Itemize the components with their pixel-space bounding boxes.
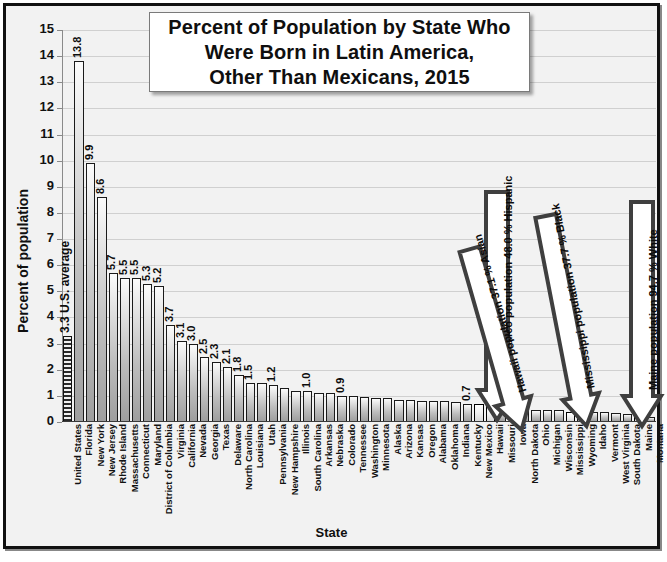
bar (132, 278, 141, 422)
x-tick-label: Kentucky (472, 424, 483, 467)
bar-value-label: 3.3 U.S. average (58, 241, 72, 333)
bar (269, 385, 278, 422)
x-tick-label: South Carolina (312, 424, 323, 492)
x-tick-label: Tennessee (357, 424, 368, 472)
bar-value-label: 5.3 (140, 265, 152, 280)
x-tick-label: Arizona (403, 424, 414, 459)
x-axis-title: State (6, 525, 657, 540)
bar-value-label: 1.0 (300, 372, 312, 387)
bar (234, 375, 243, 422)
y-tick-label: 14 (18, 47, 54, 62)
x-tick-label: New York (95, 424, 106, 466)
x-tick-label: Maine (643, 424, 654, 451)
bar (463, 404, 472, 422)
x-tick-label: Oregon (426, 424, 437, 458)
y-tick-label: 13 (18, 73, 54, 88)
y-tick-label: 15 (18, 21, 54, 36)
bar (189, 344, 198, 422)
y-axis-title: Percent of population (12, 101, 34, 421)
x-tick-label: Delaware (232, 424, 243, 466)
bar-value-label: 2.5 (197, 338, 209, 353)
x-tick-label: North Carolina (243, 424, 254, 490)
chart-title-line-1: Percent of Population by State Who (168, 15, 510, 40)
bar (314, 393, 323, 422)
bar-value-label: 13.8 (71, 37, 83, 58)
bar (246, 383, 255, 422)
x-tick-label: New Mexico (483, 424, 494, 478)
bar (177, 341, 186, 422)
bar (360, 397, 369, 422)
x-tick-label: Mississippi (574, 424, 585, 475)
bar (326, 393, 335, 422)
x-tick-label: Maryland (152, 424, 163, 466)
x-tick-label: Wisconsin (563, 424, 574, 471)
annotation-text-maine: Maine population 94.7 % White (647, 229, 659, 390)
bar (451, 402, 460, 422)
y-tick-mark (57, 422, 62, 423)
bar-value-label: 3.0 (185, 325, 197, 340)
x-tick-label: Illinois (300, 424, 311, 454)
chart-title-box: Percent of Population by State Who Were … (149, 12, 530, 92)
bar (394, 400, 403, 422)
x-tick-label: Indiana (460, 424, 471, 457)
x-tick-label: Colorado (346, 424, 357, 466)
x-tick-label: Utah (266, 424, 277, 445)
x-tick-label: Michigan (551, 424, 562, 465)
bar-value-label: 1.2 (265, 367, 277, 382)
bar (349, 396, 358, 422)
bar-value-label: 5.7 (105, 255, 117, 270)
y-axis-title-text: Percent of population (15, 189, 31, 333)
bar (97, 197, 106, 422)
bar (337, 396, 346, 422)
bar (143, 284, 152, 423)
x-tick-label: Kansas (414, 424, 425, 458)
x-tick-label: Minnesota (380, 424, 391, 471)
x-tick-label: Nebraska (334, 424, 345, 467)
bar-value-label: 8.6 (94, 179, 106, 194)
x-tick-label: Alabama (437, 424, 448, 464)
x-tick-label: Rhode Island (117, 424, 128, 484)
bar (63, 336, 72, 422)
bar (417, 401, 426, 422)
bar (406, 400, 415, 422)
x-tick-label: Georgia (209, 424, 220, 460)
bar-value-label: 5.5 (117, 260, 129, 275)
bar (109, 273, 118, 422)
bar (440, 401, 449, 422)
x-tick-label: District of Columbia (163, 424, 174, 514)
x-tick-label: Virginia (175, 424, 186, 459)
bar (120, 278, 129, 422)
x-tick-label: Arkansas (323, 424, 334, 467)
chart-title-line-2: Were Born in Latin America, (205, 40, 474, 65)
x-tick-label: Texas (220, 424, 231, 450)
x-tick-label: Pennsylvania (277, 424, 288, 485)
x-tick-label: United States (72, 424, 83, 485)
x-tick-label: South Dakota (631, 424, 642, 485)
bar-value-label: 0.7 (460, 385, 472, 400)
bar-value-label: 5.5 (128, 260, 140, 275)
bar (166, 325, 175, 422)
x-tick-label: Oklahoma (449, 424, 460, 470)
bar (74, 61, 83, 422)
x-tick-label: Washington (369, 424, 380, 478)
x-tick-label: Alaska (392, 424, 403, 455)
x-tick-label: Massachusetts (129, 424, 140, 492)
x-tick-label: New Jersey (106, 424, 117, 476)
bar (257, 383, 266, 422)
bar (371, 398, 380, 422)
x-tick-label: Wyoming (586, 424, 597, 467)
x-tick-label: California (186, 424, 197, 468)
bar (223, 367, 232, 422)
x-tick-label: Vermont (609, 424, 620, 462)
bar (383, 398, 392, 422)
x-tick-label: Connecticut (140, 424, 151, 479)
chart-figure: Percent of Population by State Who Were … (3, 3, 660, 549)
bar-value-label: 2.3 (208, 344, 220, 359)
bar (200, 357, 209, 422)
bar (291, 391, 300, 422)
bar-value-label: 3.7 (163, 307, 175, 322)
x-tick-label: New Hampshire (289, 424, 300, 495)
bar (429, 401, 438, 422)
bar (212, 362, 221, 422)
bar (303, 391, 312, 422)
